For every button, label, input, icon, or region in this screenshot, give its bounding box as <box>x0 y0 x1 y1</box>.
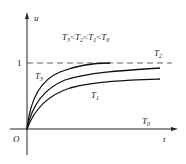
inequality-annotation: T3<T2<T1<T0 <box>62 32 109 43</box>
label-T2: T2 <box>154 48 162 59</box>
curve-T1 <box>27 79 160 129</box>
y-axis-arrow-icon <box>25 12 29 19</box>
x-axis-arrow-icon <box>171 127 178 131</box>
origin-label: O <box>13 134 20 144</box>
y-tick-1: 1 <box>17 58 22 68</box>
y-axis-label: u <box>34 13 39 23</box>
x-axis-label: t <box>163 134 166 144</box>
label-T0: T0 <box>142 116 150 127</box>
label-T1: T1 <box>91 90 99 101</box>
label-T3: T3 <box>35 71 43 82</box>
chart-canvas: u t O 1 T3<T2<T1<T0 T2 T3 T1 T0 <box>0 0 186 164</box>
